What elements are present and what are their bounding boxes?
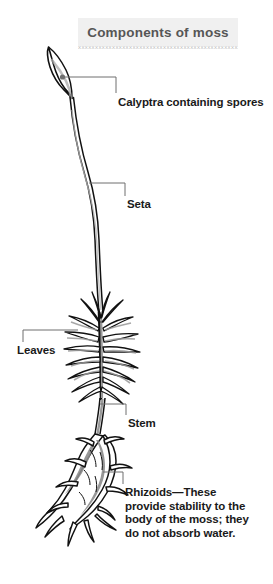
label-rhizoids: Rhizoids—These provide stability to the …: [125, 486, 255, 540]
seta-leader: [89, 183, 125, 196]
rhizoids-mass: [36, 434, 132, 546]
moss-stem: [95, 398, 105, 434]
label-leaves: Leaves: [17, 344, 55, 358]
leader-lines: [23, 74, 126, 484]
label-seta: Seta: [127, 198, 151, 212]
moss-diagram-figure: xxxxxxxxxxxxxxxxxxxxxxxxxxxxxxxxxxxxxxxx…: [0, 0, 273, 584]
label-calyptra: Calyptra containing spores: [118, 96, 264, 110]
seta-stalk: [70, 97, 103, 312]
calyptra-shape: [47, 47, 72, 99]
label-stem: Stem: [128, 417, 156, 431]
